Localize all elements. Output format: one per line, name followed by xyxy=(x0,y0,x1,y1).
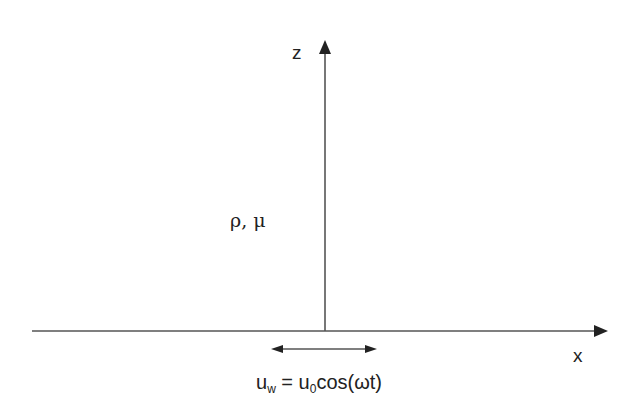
fluid-properties-label: ρ, μ xyxy=(230,211,266,230)
wall-velocity-equation: uw = u0cos(ωt) xyxy=(256,372,382,395)
oscillation-arrow-left-head xyxy=(271,345,283,353)
diagram-canvas xyxy=(0,0,623,420)
z-axis-arrowhead xyxy=(319,40,331,54)
x-axis-arrowhead xyxy=(594,325,608,337)
equals-sign: = xyxy=(276,371,299,393)
z-axis-label: z xyxy=(292,43,302,62)
oscillation-arrow-right-head xyxy=(365,345,377,353)
lhs-subscript: w xyxy=(267,382,276,396)
x-axis-label: x xyxy=(573,346,583,365)
lhs-base: u xyxy=(256,371,267,393)
rhs-base: u xyxy=(299,371,310,393)
rhs-rest: cos(ωt) xyxy=(316,371,382,393)
